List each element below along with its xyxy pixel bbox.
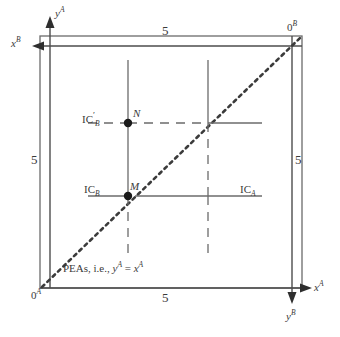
axis-label-x-a: xA — [314, 280, 323, 293]
ic-a-curve — [135, 60, 262, 255]
tick-label-left: 5 — [31, 153, 38, 166]
x-b-arrowhead — [32, 42, 44, 51]
peas-diagonal-line — [42, 38, 300, 287]
curve-label-ic-a: ICA — [240, 184, 256, 198]
edgeworth-box-diagram: yA xB xA yB 0A 0B 5 5 5 5 IC′B ICB ICA N… — [0, 0, 340, 337]
point-n-marker — [124, 119, 132, 127]
tick-label-top: 5 — [162, 24, 169, 37]
tick-label-right: 5 — [295, 153, 302, 166]
tick-label-bottom: 5 — [162, 291, 169, 304]
point-label-n: N — [133, 108, 140, 119]
peas-annotation: PEAs, i.e., yA = xA — [63, 261, 143, 274]
point-label-m: M — [130, 181, 139, 192]
origin-label-a: 0A — [31, 288, 41, 301]
ic-b-prime-curve — [88, 60, 208, 123]
y-a-arrowhead — [46, 16, 55, 28]
curve-label-ic-b-prime: IC′B — [82, 111, 100, 127]
axis-label-x-b: xB — [11, 36, 20, 49]
axis-label-y-a: yA — [55, 6, 64, 19]
origin-label-b: 0B — [287, 20, 297, 33]
axis-label-y-b: yB — [286, 309, 295, 322]
diagram-canvas — [0, 0, 340, 337]
point-m-marker — [124, 192, 132, 200]
curve-label-ic-b: ICB — [84, 184, 100, 198]
y-b-arrowhead — [288, 292, 297, 304]
x-a-arrowhead — [300, 284, 312, 293]
